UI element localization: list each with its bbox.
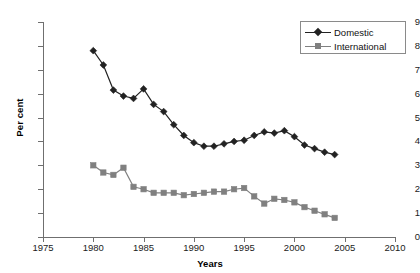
data-point-marker	[101, 170, 106, 175]
data-point-marker	[272, 196, 277, 201]
data-point-marker	[312, 208, 317, 213]
data-point-marker	[120, 93, 127, 100]
data-point-marker	[231, 138, 238, 145]
data-point-marker	[241, 185, 246, 190]
data-point-marker	[221, 189, 226, 194]
data-point-marker	[191, 191, 196, 196]
data-point-marker	[211, 143, 218, 150]
data-point-marker	[151, 190, 156, 195]
data-point-marker	[181, 192, 186, 197]
data-point-marker	[281, 127, 288, 134]
data-point-marker	[292, 200, 297, 205]
data-point-marker	[161, 190, 166, 195]
data-point-marker	[111, 172, 116, 177]
data-point-marker	[311, 145, 318, 152]
data-point-marker	[201, 190, 206, 195]
chart-canvas: 0123456789 19751980198519901995200020052…	[0, 0, 420, 273]
data-point-marker	[110, 87, 117, 94]
series-international	[91, 163, 338, 221]
data-point-marker	[322, 212, 327, 217]
data-point-marker	[211, 189, 216, 194]
data-point-marker	[171, 190, 176, 195]
legend-item-international[interactable]: International	[305, 39, 401, 53]
data-point-marker	[261, 128, 268, 135]
data-point-marker	[251, 132, 258, 139]
square-marker-icon	[305, 40, 331, 52]
chart-legend: DomesticInternational	[300, 21, 406, 54]
data-point-marker	[321, 149, 328, 156]
data-point-marker	[91, 163, 96, 168]
data-point-marker	[332, 215, 337, 220]
series-line	[93, 51, 334, 155]
data-point-marker	[271, 130, 278, 137]
legend-label: Domestic	[331, 27, 374, 38]
data-point-marker	[252, 194, 257, 199]
series-domestic	[90, 47, 338, 158]
legend-label: International	[331, 41, 386, 52]
legend-item-domestic[interactable]: Domestic	[305, 25, 401, 39]
data-point-marker	[131, 184, 136, 189]
data-point-marker	[262, 201, 267, 206]
data-point-marker	[201, 143, 208, 150]
data-point-marker	[302, 204, 307, 209]
data-point-marker	[231, 187, 236, 192]
diamond-marker-icon	[305, 26, 331, 38]
data-point-marker	[331, 151, 338, 158]
data-point-marker	[121, 165, 126, 170]
data-point-marker	[221, 140, 228, 147]
data-point-marker	[141, 187, 146, 192]
data-point-marker	[241, 137, 248, 144]
data-point-marker	[282, 197, 287, 202]
